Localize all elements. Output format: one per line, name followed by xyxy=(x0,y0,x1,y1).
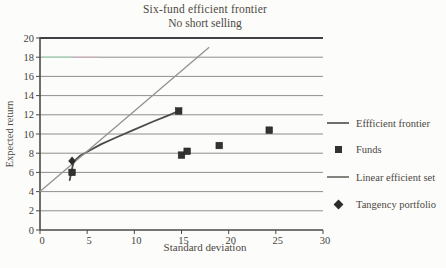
marker-square-5 xyxy=(266,127,273,134)
y-tick-label-18: 18 xyxy=(24,52,35,63)
legend-label: Linear efficient set xyxy=(356,172,435,183)
square-glyph xyxy=(335,146,342,153)
y-tick-label-14: 14 xyxy=(24,90,35,101)
legend-line-swatch xyxy=(326,117,350,129)
y-tick-label-6: 6 xyxy=(29,167,34,178)
y-tick-label-8: 8 xyxy=(29,148,34,159)
marker-square-1 xyxy=(175,108,182,115)
marker-diamond-0 xyxy=(68,157,76,166)
legend-item-linear-efficient-set: Linear efficient set xyxy=(326,169,435,185)
legend-square-icon xyxy=(326,143,350,155)
legend-item-tangency-portfolio: Tangency portfolio xyxy=(326,196,436,212)
legend-line-swatch xyxy=(326,171,350,183)
y-tick-label-10: 10 xyxy=(24,129,35,140)
legend-diamond-icon xyxy=(326,198,350,210)
marker-square-0 xyxy=(69,169,76,176)
series-line-linear-efficient-set xyxy=(40,48,209,192)
y-tick-label-12: 12 xyxy=(24,109,35,120)
legend-label: Tangency portfolio xyxy=(356,199,436,210)
legend-item-effficient-frontier: Effficient frontier xyxy=(326,115,430,131)
line-glyph xyxy=(327,122,349,124)
y-tick-label-20: 20 xyxy=(24,33,35,44)
y-tick-label-16: 16 xyxy=(24,71,35,82)
legend-label: Effficient frontier xyxy=(356,118,430,129)
series-line-efficient-frontier xyxy=(70,111,179,180)
marker-square-3 xyxy=(184,148,191,155)
legend: Effficient frontierFundsLinear efficient… xyxy=(326,0,446,268)
y-tick-label-2: 2 xyxy=(29,205,34,216)
legend-item-funds: Funds xyxy=(326,141,382,157)
marker-square-4 xyxy=(216,142,223,149)
y-tick-label-0: 0 xyxy=(29,225,34,236)
figure: Six-fund efficient frontier No short sel… xyxy=(0,0,446,268)
y-tick-label-4: 4 xyxy=(29,186,35,197)
legend-label: Funds xyxy=(356,144,382,155)
x-axis-label: Standard deviation xyxy=(40,241,370,253)
diamond-glyph xyxy=(333,199,343,209)
line-glyph xyxy=(327,176,349,178)
